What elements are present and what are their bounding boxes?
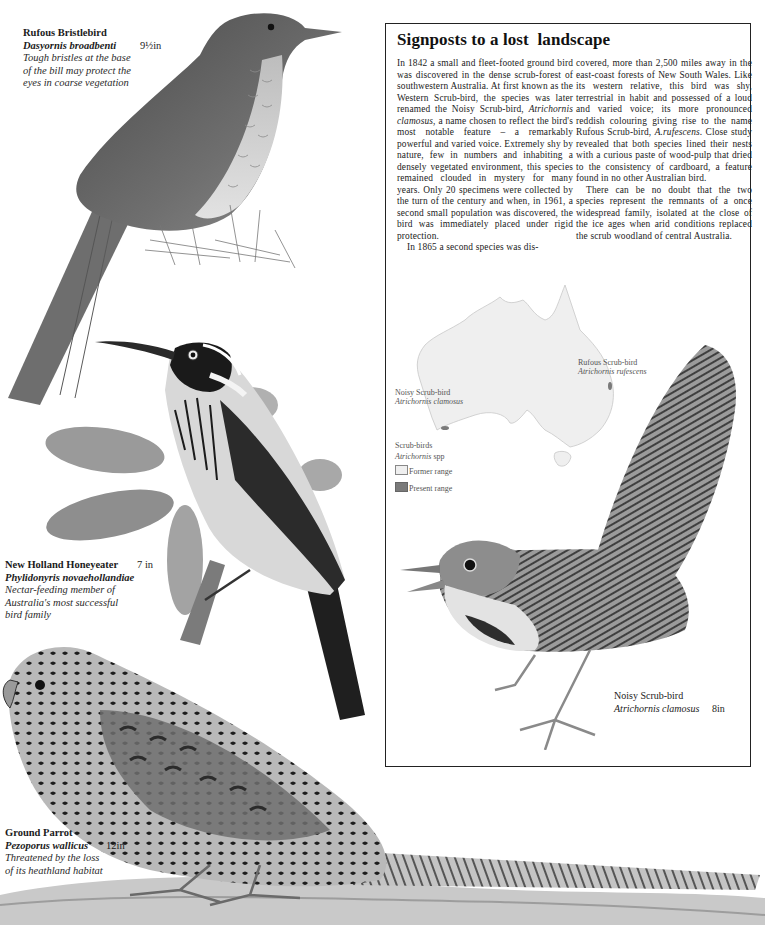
legend-item-present-range: Present range: [395, 482, 452, 494]
species-note-line: eyes in coarse vegetation: [23, 77, 173, 90]
species-note-line: Australia's most successful: [5, 597, 165, 610]
species-common-name: Ground Parrot: [5, 827, 165, 840]
species-note-line: Tough bristles at the base: [23, 52, 173, 65]
species-note-line: Threatened by the loss: [5, 852, 165, 865]
species-scientific-name: Dasyornis broadbenti: [23, 40, 116, 51]
species-scientific-name: Phylidonyris novaehollandiae: [5, 572, 165, 585]
feature-column-2: covered, more than 2,500 miles away in t…: [576, 58, 752, 242]
species-note-line: of its heathland habitat: [5, 865, 165, 878]
paragraph: In 1842 a small and fleet-footed ground …: [397, 58, 573, 242]
species-common-name: Noisy Scrub-bird: [614, 690, 754, 703]
paragraph: covered, more than 2,500 miles away in t…: [576, 58, 752, 185]
species-size: 9½in: [140, 40, 161, 53]
species-scientific-name: Pezoporus wallicus: [5, 840, 88, 851]
feature-box-title: Signposts to a lost landscape: [397, 30, 610, 50]
ground-parrot-caption: Ground Parrot Pezoporus wallicus 12in Th…: [5, 827, 165, 877]
species-size: 8in: [712, 703, 725, 716]
present-range-swatch: [395, 482, 408, 492]
species-common-name: New Holland Honeyeater: [5, 559, 118, 570]
species-size: 12in: [106, 840, 125, 853]
legend-title: Scrub-birds: [395, 440, 452, 451]
noisy-scrub-bird-caption: Noisy Scrub-bird Atrichornis clamosus 8i…: [614, 690, 754, 715]
feature-column-1: In 1842 a small and fleet-footed ground …: [397, 58, 573, 254]
paragraph: In 1865 a second species was dis-: [397, 242, 573, 254]
legend-item-former-range: Former range: [395, 465, 452, 477]
map-legend: Scrub-birds Atrichornis spp Former range…: [395, 440, 452, 494]
species-size: 7 in: [137, 559, 153, 572]
map-label-noisy-scrub-bird: Noisy Scrub-bird Atrichornis clamosus: [395, 388, 463, 406]
species-common-name: Rufous Bristlebird: [23, 27, 173, 40]
species-scientific-name: Atrichornis clamosus: [614, 703, 699, 714]
species-note-line: bird family: [5, 609, 165, 622]
species-note-line: Nectar-feeding member of: [5, 584, 165, 597]
map-label-rufous-scrub-bird: Rufous Scrub-bird Atrichornis rufescens: [578, 358, 647, 376]
species-note-line: of the bill may protect the: [23, 65, 173, 78]
scientific-name: A.rufescens: [655, 127, 700, 137]
paragraph: There can be no doubt that the two speci…: [576, 185, 752, 243]
former-range-swatch: [395, 465, 408, 475]
rufous-bristlebird-caption: Rufous Bristlebird Dasyornis broadbenti …: [23, 27, 173, 90]
new-holland-honeyeater-caption: New Holland Honeyeater 7 in Phylidonyris…: [5, 559, 165, 622]
legend-subtitle: Atrichornis spp: [395, 451, 452, 462]
